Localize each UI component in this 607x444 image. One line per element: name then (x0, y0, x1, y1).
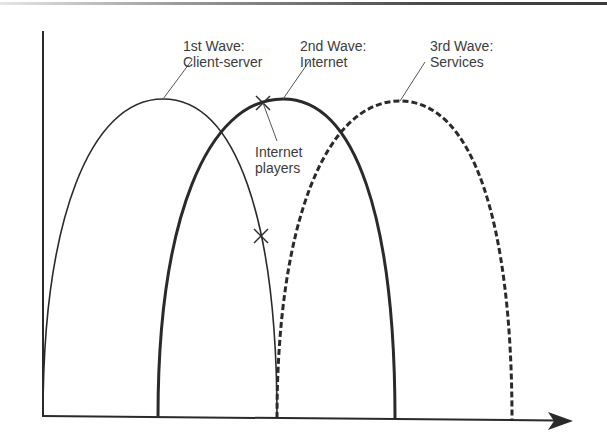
wave-2-label: 2nd Wave: Internet (300, 38, 366, 70)
wave-2-label-line1: 2nd Wave: (300, 38, 366, 54)
internet-players-leader (263, 103, 277, 141)
wave-1-label: 1st Wave: Client-server (183, 38, 262, 70)
wave-3-label-line1: 3rd Wave: (430, 38, 493, 54)
wave-1-label-line2: Client-server (183, 54, 262, 70)
internet-players-label: Internet players (255, 144, 302, 176)
internet-players-line1: Internet (255, 144, 302, 160)
wave-3-label-line2: Services (430, 54, 493, 70)
wave-3-leader (400, 62, 425, 101)
wave-2-label-line2: Internet (300, 54, 366, 70)
wave-1-label-line1: 1st Wave: (183, 38, 262, 54)
x-axis (42, 416, 555, 421)
wave-3-label: 3rd Wave: Services (430, 38, 493, 70)
internet-players-line2: players (255, 160, 302, 176)
